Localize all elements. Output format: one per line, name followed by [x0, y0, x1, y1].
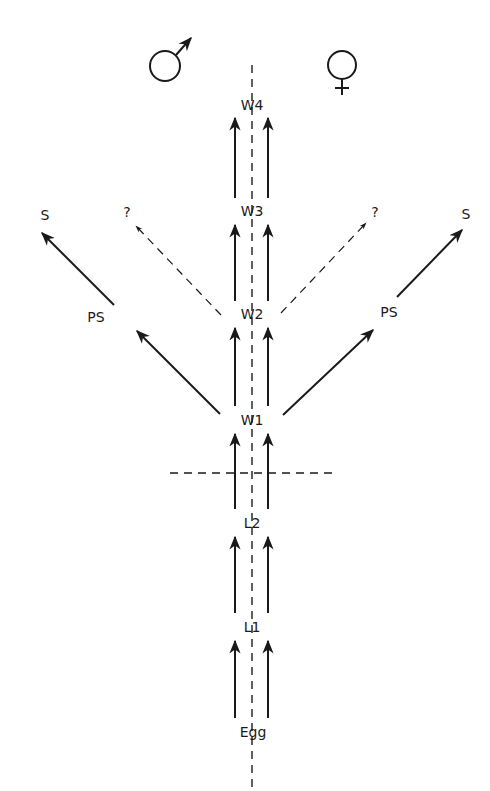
w2-to-left-unknown-arrow — [136, 226, 221, 315]
left-ps-label: PS — [87, 309, 104, 325]
stage-label-w4: W4 — [241, 97, 264, 113]
left-unknown-label: ? — [123, 204, 130, 220]
w1-to-left-ps-arrow — [137, 331, 220, 414]
right-ps-to-s-arrow — [397, 230, 462, 297]
w3-to-w4-arrows — [235, 118, 268, 198]
caste-development-diagram: W4 W3 W2 W1 L2 L1 Egg S ? PS ? S PS — [0, 0, 490, 791]
stage-label-egg: Egg — [240, 724, 267, 740]
stage-label-w2: W2 — [241, 306, 264, 322]
stage-label-w1: W1 — [241, 412, 264, 428]
male-symbol-icon — [150, 38, 191, 81]
w1-to-right-ps-arrow — [283, 330, 373, 415]
egg-to-l1-arrows — [235, 641, 268, 718]
right-unknown-label: ? — [371, 204, 378, 220]
right-s-label: S — [462, 206, 471, 222]
left-s-label: S — [41, 207, 50, 223]
right-ps-label: PS — [380, 304, 397, 320]
stage-label-l2: L2 — [244, 515, 261, 531]
female-symbol-icon — [328, 51, 356, 95]
left-ps-to-s-arrow — [42, 233, 114, 305]
stage-label-l1: L1 — [244, 619, 261, 635]
stage-label-w3: W3 — [241, 203, 264, 219]
w2-to-right-unknown-arrow — [281, 223, 366, 313]
